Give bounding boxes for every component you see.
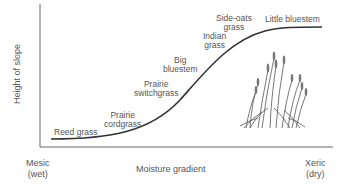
species-label-prairie-switchgrass: Prairie switchgrass bbox=[134, 80, 178, 98]
species-label-reed-grass: Reed grass bbox=[54, 128, 97, 137]
species-label-big-bluestem: Big bluestem bbox=[163, 56, 198, 74]
grass-clump-illustration bbox=[240, 58, 306, 128]
x-axis-label: Moisture gradient bbox=[136, 164, 206, 175]
y-axis-label: Height of slope bbox=[12, 44, 22, 104]
x-axis-right-label: Xeric (dry) bbox=[305, 158, 326, 180]
species-label-indian-grass: Indian grass bbox=[203, 32, 226, 50]
species-label-little-bluestem: Little bluestem bbox=[265, 15, 320, 24]
grass-seedheads bbox=[255, 52, 308, 97]
x-axis-left-label: Mesic (wet) bbox=[26, 158, 50, 180]
species-label-prairie-cordgrass: Prairie cordgrass bbox=[104, 111, 141, 129]
moisture-slope-curve bbox=[51, 27, 322, 139]
species-label-side-oats-grass: Side-oats grass bbox=[216, 14, 252, 32]
